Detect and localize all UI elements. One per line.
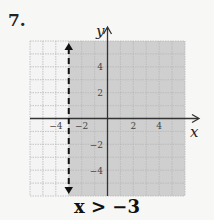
- y-tick-label: 4: [97, 62, 103, 72]
- x-tick-label: 2: [130, 121, 136, 131]
- y-tick-label: 2: [97, 88, 103, 98]
- x-tick-label: −4: [49, 121, 63, 131]
- coordinate-graph: y x −4 −2 2 4 4 2 −2 −4: [0, 0, 214, 220]
- y-tick-label: −2: [90, 140, 103, 150]
- y-axis-label: y: [95, 22, 105, 40]
- y-tick-label: −4: [90, 166, 104, 176]
- x-tick-label: 4: [156, 121, 162, 131]
- inequality-caption: x > −3: [0, 196, 214, 217]
- x-axis-label: x: [190, 123, 199, 141]
- x-tick-label: −2: [75, 121, 88, 131]
